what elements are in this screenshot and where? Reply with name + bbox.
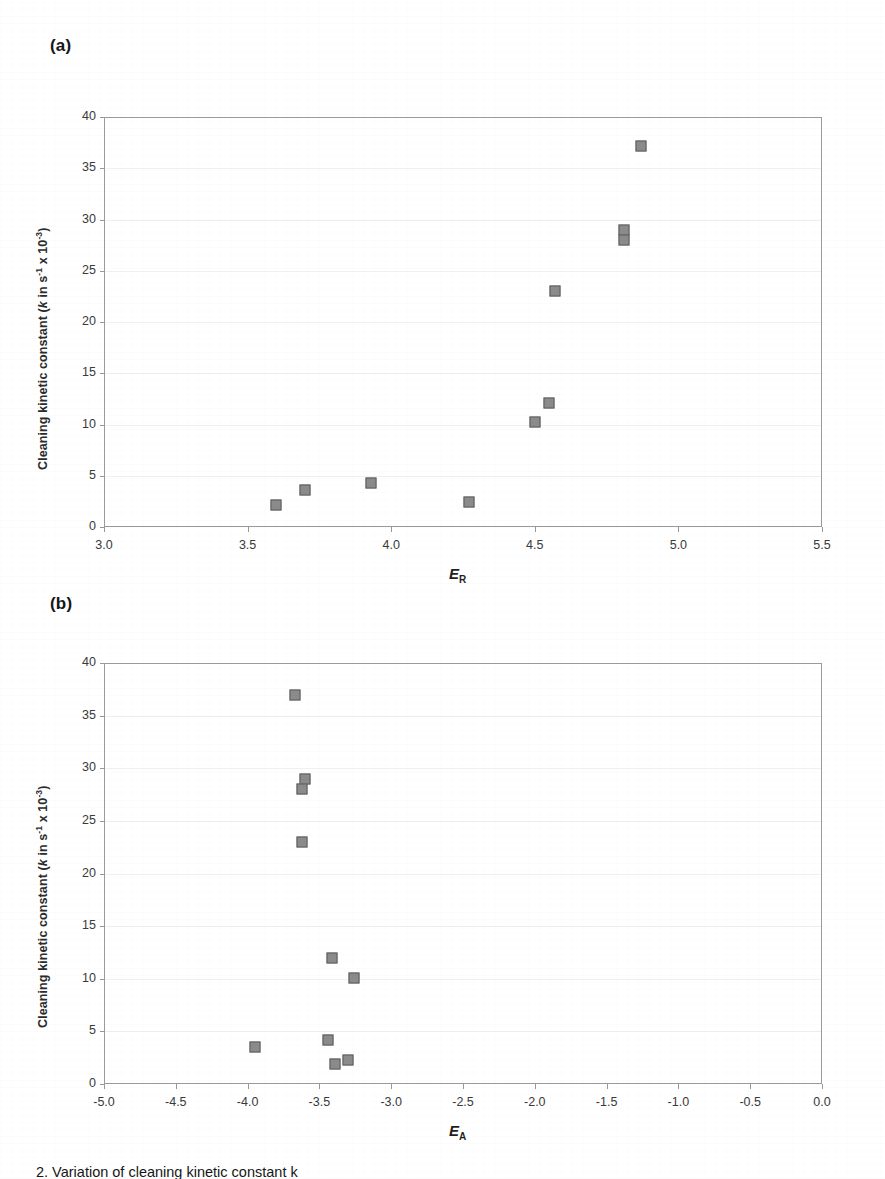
data-point-marker bbox=[289, 689, 300, 700]
y-tick-mark bbox=[100, 425, 105, 426]
y-tick-label: 35 bbox=[60, 160, 96, 174]
y-tick-mark bbox=[100, 220, 105, 221]
y-tick-mark bbox=[100, 926, 105, 927]
y-tick-label: 30 bbox=[60, 760, 96, 774]
data-point-marker bbox=[549, 286, 560, 297]
data-point-marker bbox=[636, 140, 647, 151]
x-tick-label: -3.0 bbox=[361, 1095, 421, 1109]
x-tick-mark bbox=[822, 1084, 823, 1089]
x-tick-mark bbox=[463, 1084, 464, 1089]
x-tick-label: 3.0 bbox=[74, 538, 134, 552]
x-tick-label: -1.0 bbox=[648, 1095, 708, 1109]
x-tick-mark bbox=[319, 1084, 320, 1089]
data-point-marker bbox=[300, 773, 311, 784]
y-tick-label: 30 bbox=[60, 212, 96, 226]
y-tick-label: 25 bbox=[60, 813, 96, 827]
x-tick-label: 5.0 bbox=[648, 538, 708, 552]
x-tick-label: 4.5 bbox=[505, 538, 565, 552]
x-tick-mark bbox=[750, 1084, 751, 1089]
y-tick-mark bbox=[100, 476, 105, 477]
x-tick-mark bbox=[104, 527, 105, 532]
y-tick-mark bbox=[100, 373, 105, 374]
x-tick-label: -5.0 bbox=[74, 1095, 134, 1109]
x-tick-mark bbox=[607, 1084, 608, 1089]
y-tick-mark bbox=[100, 874, 105, 875]
figure-caption: 2. Variation of cleaning kinetic constan… bbox=[36, 1164, 856, 1179]
gridline-horizontal bbox=[105, 168, 821, 169]
y-tick-label: 20 bbox=[60, 314, 96, 328]
y-tick-label: 0 bbox=[60, 519, 96, 533]
y-axis-title-b: Cleaning kinetic constant (k in s-1 x 10… bbox=[34, 786, 50, 1028]
y-tick-mark bbox=[100, 821, 105, 822]
y-tick-label: 15 bbox=[60, 918, 96, 932]
data-point-marker bbox=[618, 235, 629, 246]
x-tick-label: 4.0 bbox=[361, 538, 421, 552]
x-tick-label: -2.5 bbox=[433, 1095, 493, 1109]
gridline-horizontal bbox=[105, 716, 821, 717]
x-axis-title-a-symbol: E bbox=[449, 565, 459, 582]
data-point-marker bbox=[323, 1034, 334, 1045]
data-point-marker bbox=[249, 1042, 260, 1053]
y-tick-label: 10 bbox=[60, 417, 96, 431]
data-point-marker bbox=[544, 397, 555, 408]
x-tick-label: 0.0 bbox=[792, 1095, 852, 1109]
y-tick-mark bbox=[100, 663, 105, 664]
y-tick-mark bbox=[100, 768, 105, 769]
data-point-marker bbox=[297, 784, 308, 795]
panel-letter-a: (a) bbox=[50, 36, 71, 56]
gridline-horizontal bbox=[105, 821, 821, 822]
x-tick-mark bbox=[391, 1084, 392, 1089]
data-point-marker bbox=[327, 952, 338, 963]
gridline-horizontal bbox=[105, 926, 821, 927]
data-point-marker bbox=[463, 497, 474, 508]
x-tick-label: -4.0 bbox=[218, 1095, 278, 1109]
data-point-marker bbox=[297, 836, 308, 847]
x-tick-label: -1.5 bbox=[577, 1095, 637, 1109]
panel-letter-b: (b) bbox=[50, 594, 72, 614]
gridline-horizontal bbox=[105, 476, 821, 477]
data-point-marker bbox=[300, 485, 311, 496]
y-tick-label: 25 bbox=[60, 263, 96, 277]
x-axis-title-b: EA bbox=[449, 1122, 466, 1142]
x-tick-mark bbox=[248, 527, 249, 532]
y-tick-mark bbox=[100, 117, 105, 118]
y-tick-label: 5 bbox=[60, 1023, 96, 1037]
x-axis-title-b-symbol: E bbox=[449, 1122, 459, 1139]
x-axis-title-a-subscript: R bbox=[459, 574, 466, 585]
y-tick-mark bbox=[100, 168, 105, 169]
x-tick-mark bbox=[535, 1084, 536, 1089]
x-tick-mark bbox=[176, 1084, 177, 1089]
x-tick-label: 5.5 bbox=[792, 538, 852, 552]
x-tick-label: -4.5 bbox=[146, 1095, 206, 1109]
y-tick-label: 15 bbox=[60, 365, 96, 379]
x-tick-label: -0.5 bbox=[720, 1095, 780, 1109]
y-tick-mark bbox=[100, 716, 105, 717]
y-tick-label: 40 bbox=[60, 109, 96, 123]
gridline-horizontal bbox=[105, 373, 821, 374]
data-point-marker bbox=[343, 1054, 354, 1065]
x-tick-mark bbox=[248, 1084, 249, 1089]
x-tick-label: -3.5 bbox=[289, 1095, 349, 1109]
gridline-horizontal bbox=[105, 768, 821, 769]
x-tick-mark bbox=[391, 527, 392, 532]
y-tick-label: 20 bbox=[60, 866, 96, 880]
data-point-marker bbox=[271, 500, 282, 511]
x-tick-mark bbox=[822, 527, 823, 532]
x-axis-title-a: ER bbox=[449, 565, 466, 585]
x-axis-title-b-subscript: A bbox=[459, 1131, 466, 1142]
y-tick-label: 0 bbox=[60, 1076, 96, 1090]
data-point-marker bbox=[330, 1059, 341, 1070]
x-tick-label: -2.0 bbox=[505, 1095, 565, 1109]
gridline-horizontal bbox=[105, 425, 821, 426]
y-tick-mark bbox=[100, 1031, 105, 1032]
gridline-horizontal bbox=[105, 220, 821, 221]
x-tick-mark bbox=[104, 1084, 105, 1089]
y-tick-mark bbox=[100, 979, 105, 980]
data-point-marker bbox=[529, 417, 540, 428]
gridline-horizontal bbox=[105, 979, 821, 980]
y-tick-mark bbox=[100, 271, 105, 272]
y-tick-label: 10 bbox=[60, 971, 96, 985]
x-tick-mark bbox=[678, 527, 679, 532]
gridline-horizontal bbox=[105, 271, 821, 272]
data-point-marker bbox=[366, 477, 377, 488]
